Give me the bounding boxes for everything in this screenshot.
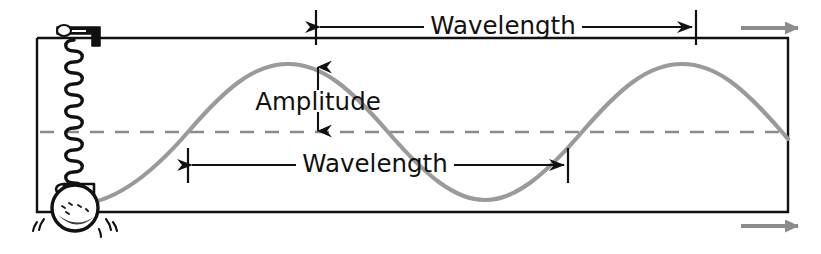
wavelength-bottom-label: Wavelength (302, 149, 447, 178)
sine-wave-path (75, 64, 788, 204)
wavelength-top-annotation: Wavelength (316, 10, 696, 45)
anchor-eyelet (57, 25, 71, 36)
wave-diagram-figure: Wavelength Wavelength Amplitude (0, 0, 821, 254)
wave-curve (75, 64, 788, 204)
spring-anchor-bracket (57, 25, 100, 46)
diagram-canvas: Wavelength Wavelength Amplitude (0, 0, 821, 254)
motion-arrows-group (741, 28, 798, 226)
spring-coils (66, 40, 83, 194)
hanging-mass-ball (52, 185, 98, 232)
amplitude-label: Amplitude (255, 87, 381, 116)
wavelength-bottom-annotation: Wavelength (188, 148, 568, 183)
amplitude-annotation: Amplitude (255, 67, 381, 131)
wavelength-top-label: Wavelength (430, 11, 575, 40)
coil-spring (66, 40, 83, 194)
